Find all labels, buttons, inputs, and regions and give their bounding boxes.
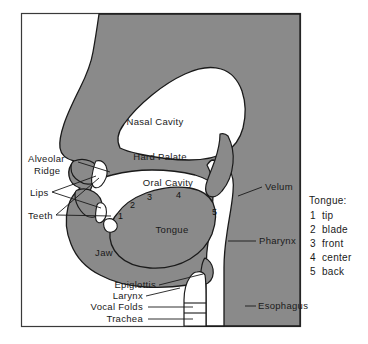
label-jaw: Jaw [95, 247, 113, 258]
label-lips: Lips [30, 187, 49, 198]
label-hard-palate: Hard Palate [133, 151, 186, 162]
tongue-legend: Tongue: 1 tip 2 blade 3 front 4 center 5… [309, 195, 352, 277]
label-nasal-cavity: Nasal Cavity [127, 116, 184, 127]
vocal-tract-diagram: Nasal Cavity Hard Palate Oral Cavity Alv… [0, 0, 368, 344]
legend-item-2-name: blade [322, 224, 348, 235]
label-epiglottis: Epiglottis [114, 279, 156, 290]
tongue-number-1: 1 [118, 211, 123, 221]
legend-item-1-number: 1 [310, 210, 316, 221]
label-alveolar-ridge-line1: Alveolar [28, 153, 65, 164]
label-velum: Velum [265, 181, 293, 192]
label-larynx: Larynx [113, 290, 143, 301]
legend-item-2-number: 2 [310, 224, 316, 235]
legend-item-4-name: center [322, 252, 352, 263]
tongue-number-3: 3 [147, 192, 152, 202]
legend-item-1-name: tip [322, 210, 334, 221]
sublingual-notch-shape [104, 219, 118, 233]
label-trachea: Trachea [106, 313, 143, 324]
tongue-number-5: 5 [212, 207, 217, 217]
legend-item-3-number: 3 [310, 238, 316, 249]
figure-root: Nasal Cavity Hard Palate Oral Cavity Alv… [0, 0, 368, 344]
legend-item-4-number: 4 [310, 252, 316, 263]
legend-item-3-name: front [322, 238, 344, 249]
legend-title: Tongue: [309, 195, 347, 206]
label-oral-cavity: Oral Cavity [143, 177, 193, 188]
label-teeth: Teeth [28, 210, 53, 221]
tongue-number-2: 2 [130, 200, 135, 210]
label-tongue: Tongue [156, 224, 189, 235]
label-esophagus: Esophagus [258, 300, 308, 311]
tongue-number-4: 4 [176, 190, 181, 200]
label-pharynx: Pharynx [259, 235, 296, 246]
label-alveolar-ridge-line2: Ridge [34, 165, 60, 176]
label-vocal-folds: Vocal Folds [91, 301, 143, 312]
legend-item-5-number: 5 [310, 266, 316, 277]
legend-item-5-name: back [322, 266, 345, 277]
